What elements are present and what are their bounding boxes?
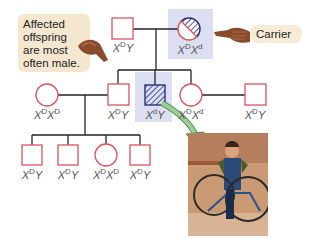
gen2-carrier-female-circle <box>180 84 202 106</box>
gen3-male-square <box>58 145 78 165</box>
genotype-label: XDY <box>238 107 272 121</box>
gen2-spouse-male-square <box>245 84 266 105</box>
genotype-label: XDXD <box>86 167 126 181</box>
gen2-male-square <box>108 84 129 105</box>
gen1-father-square <box>112 18 133 39</box>
gen3-female-circle <box>95 144 117 166</box>
gen1-mother-carrier-circle <box>178 18 200 40</box>
genotype-label: XDY <box>123 167 157 181</box>
genotype-label: XDXd <box>170 42 210 56</box>
genotype-label: XDY <box>51 167 85 181</box>
hand-pointer-icon <box>78 40 108 62</box>
hand-pointer-icon <box>214 28 250 43</box>
gen2-spouse-female-circle <box>36 84 58 106</box>
affected-boy-photo <box>188 133 268 236</box>
genotype-label: XDY <box>101 107 135 121</box>
gen3-male-square <box>130 145 150 165</box>
genotype-label: XDY <box>15 167 49 181</box>
gen3-male-square <box>22 145 42 165</box>
genotype-label: XdY <box>138 107 172 121</box>
genotype-label: XDY <box>106 40 140 54</box>
genotype-label: XDXD <box>27 107 67 121</box>
genotype-label: XDXd <box>171 107 211 121</box>
gen2-affected-male-square <box>145 85 165 105</box>
